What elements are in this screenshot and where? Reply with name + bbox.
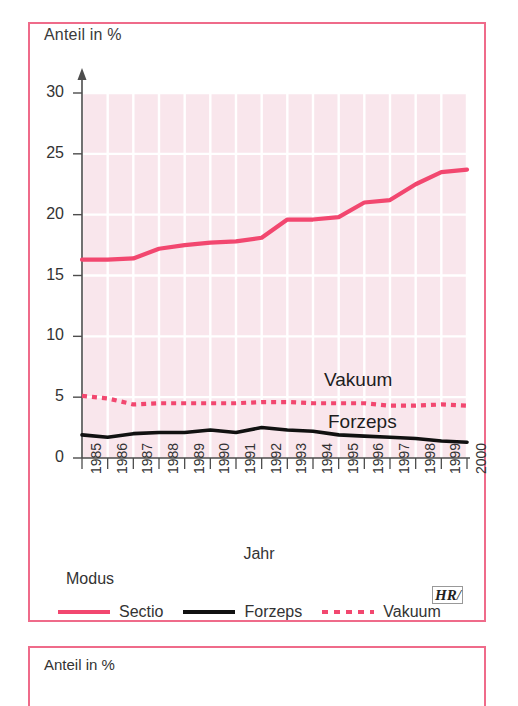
legend-title: Modus [66,570,114,588]
x-tick-label: 1999 [447,443,463,474]
legend-label: Vakuum [383,603,441,621]
x-tick-label: 1995 [345,443,361,474]
legend-swatch-icon [58,605,110,619]
series-line-forzeps [82,428,467,443]
x-tick-label: 1997 [396,443,412,474]
x-tick-label: 2000 [473,443,489,474]
x-tick-label: 1992 [268,443,284,474]
publisher-watermark: HR/ [432,586,463,604]
series-line-vakuum [82,396,467,406]
x-tick-label: 1986 [114,443,130,474]
legend-item-vakuum[interactable]: Vakuum [322,603,441,621]
series-line-sectio [82,170,467,260]
x-tick-label: 1994 [319,443,335,474]
y-tick-label: 30 [30,83,64,101]
y-tick-label: 5 [30,387,64,405]
legend: SectioForzepsVakuum [58,600,478,624]
y-tick-label: 15 [30,266,64,284]
legend-item-sectio[interactable]: Sectio [58,603,163,621]
legend-label: Forzeps [244,603,302,621]
y-tick-label: 10 [30,326,64,344]
legend-item-forzeps[interactable]: Forzeps [183,603,302,621]
legend-swatch-icon [183,605,235,619]
x-tick-label: 1996 [370,443,386,474]
y-axis-title-below: Anteil in % [44,656,115,673]
x-tick-label: 1989 [191,443,207,474]
annotation-forzeps: Forzeps [328,411,397,433]
y-tick-label: 20 [30,205,64,223]
annotation-vakuum: Vakuum [324,369,392,391]
y-tick-label: 0 [30,448,64,466]
x-tick-label: 1991 [242,443,258,474]
x-tick-label: 1988 [165,443,181,474]
x-tick-label: 1998 [422,443,438,474]
legend-label: Sectio [119,603,163,621]
x-tick-label: 1987 [139,443,155,474]
x-axis-title: Jahr [0,545,518,563]
legend-swatch-icon [322,605,374,619]
x-tick-label: 1993 [293,443,309,474]
x-tick-label: 1985 [88,443,104,474]
x-tick-label: 1990 [216,443,232,474]
y-tick-label: 25 [30,144,64,162]
chart-panel-below: Anteil in % [28,646,486,706]
